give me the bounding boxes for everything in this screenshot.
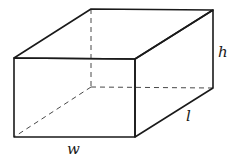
hidden-edge-depth [14,87,91,137]
hidden-edge-back-bottom [91,87,213,88]
width-label: w [67,140,80,158]
length-label: l [186,107,191,125]
right-face [135,10,213,137]
height-label: h [218,43,228,61]
rectangular-prism-diagram: w l h [0,0,240,161]
top-face [14,9,213,59]
